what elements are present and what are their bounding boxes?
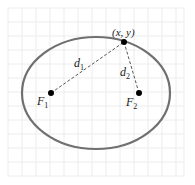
point-xy (121, 39, 127, 45)
f2-sub: 2 (133, 102, 137, 111)
point-label: (x, y) (112, 27, 135, 38)
d1-sub: 1 (80, 63, 84, 72)
grid (8, 8, 184, 176)
focus-label-f2: F2 (126, 96, 137, 111)
d2-sub: 2 (126, 72, 130, 81)
distance-label-d2: d2 (120, 66, 130, 81)
focus-point-f1 (48, 90, 54, 96)
ellipse-diagram: (x, y) d1 d2 F1 F2 (0, 0, 195, 185)
f1-sub: 1 (44, 101, 48, 110)
distance-label-d1: d1 (74, 57, 84, 72)
focus-label-f1: F1 (37, 95, 48, 110)
diagram-svg (0, 0, 195, 185)
